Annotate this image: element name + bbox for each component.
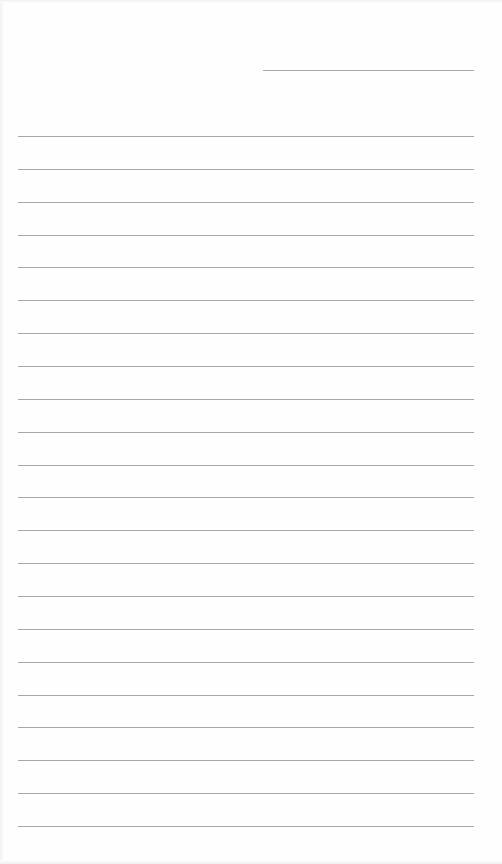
ruled-line (18, 826, 474, 827)
ruled-line (18, 662, 474, 663)
ruled-line (18, 793, 474, 794)
ruled-line (18, 727, 474, 728)
ruled-line (18, 235, 474, 236)
ruled-line (18, 202, 474, 203)
page-left-edge (0, 0, 4, 864)
ruled-line (18, 497, 474, 498)
lined-paper-page (0, 0, 502, 864)
ruled-line (18, 366, 474, 367)
ruled-line (18, 596, 474, 597)
ruled-line (18, 432, 474, 433)
page-bottom-edge (0, 860, 502, 864)
ruled-line (18, 267, 474, 268)
ruled-line (18, 136, 474, 137)
ruled-line (18, 629, 474, 630)
ruled-line (18, 563, 474, 564)
ruled-line (18, 760, 474, 761)
ruled-line (18, 333, 474, 334)
ruled-line (18, 169, 474, 170)
ruled-line (18, 300, 474, 301)
ruled-line (18, 465, 474, 466)
ruled-line (18, 695, 474, 696)
header-date-line (263, 70, 474, 71)
ruled-line (18, 399, 474, 400)
ruled-line (18, 530, 474, 531)
page-top-edge (0, 0, 502, 3)
